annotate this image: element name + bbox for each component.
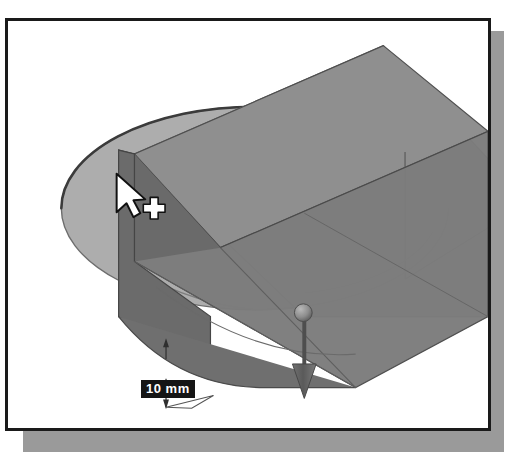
drag-arrow-ball[interactable] [294, 304, 312, 322]
cad-scene[interactable] [8, 21, 488, 428]
cad-viewport[interactable]: 10 mm [5, 18, 491, 431]
screenshot-stage: 10 mm [0, 0, 512, 459]
dimension-value-label[interactable]: 10 mm [141, 380, 195, 398]
